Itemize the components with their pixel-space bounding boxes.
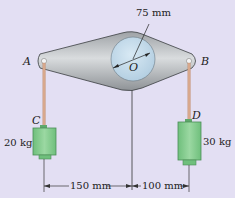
pin-A xyxy=(41,58,46,63)
dim-arrow-1 xyxy=(44,184,50,188)
block-C xyxy=(33,128,56,155)
rope-AC xyxy=(43,63,46,129)
mass-D-label: 30 kg xyxy=(203,136,232,147)
dim-arrow-2 xyxy=(126,184,132,188)
dim-arrow-3 xyxy=(132,184,138,188)
mass-C-label: 20 kg xyxy=(4,137,33,148)
label-O: O xyxy=(129,61,138,74)
block-C-base xyxy=(39,155,51,159)
label-B: B xyxy=(200,55,209,68)
block-D xyxy=(178,122,201,160)
dim-arrow-4 xyxy=(183,184,189,188)
label-D: D xyxy=(191,109,201,122)
dim-label-left: 150 mm xyxy=(70,180,112,191)
pulley-plate-diagram: 75 mm A B O C D 20 kg 30 kg 150 mm 100 m… xyxy=(0,0,235,198)
label-A: A xyxy=(22,55,31,68)
rope-BD xyxy=(188,63,191,123)
label-C: C xyxy=(32,114,41,127)
block-D-base xyxy=(183,160,196,165)
block-D-cap xyxy=(185,119,192,122)
block-C-cap xyxy=(40,125,47,128)
dim-label-right: 100 mm xyxy=(142,180,184,191)
pin-B xyxy=(186,58,191,63)
radius-label: 75 mm xyxy=(136,7,171,18)
